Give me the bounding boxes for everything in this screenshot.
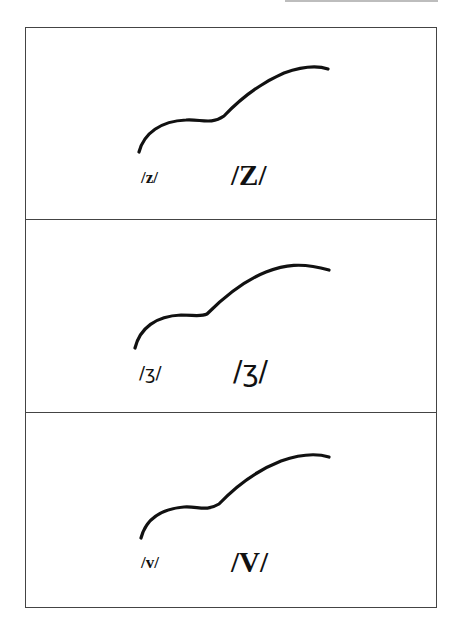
intonation-curve-icon <box>26 220 436 410</box>
label-small: /z/ <box>141 168 158 188</box>
label-small: /v/ <box>141 553 159 573</box>
label-small: /ʒ/ <box>139 362 162 383</box>
panel-v: /v/ /V/ <box>26 413 436 607</box>
top-edge-line <box>285 0 438 2</box>
label-large: /ʒ/ <box>233 355 268 388</box>
diagram-frame: /z/ /Z/ /ʒ/ /ʒ/ /v/ /V/ <box>25 27 437 608</box>
panel-zh: /ʒ/ /ʒ/ <box>26 220 436 413</box>
label-large: /Z/ <box>231 159 266 192</box>
panel-z: /z/ /Z/ <box>26 28 436 220</box>
label-large: /V/ <box>231 546 268 579</box>
